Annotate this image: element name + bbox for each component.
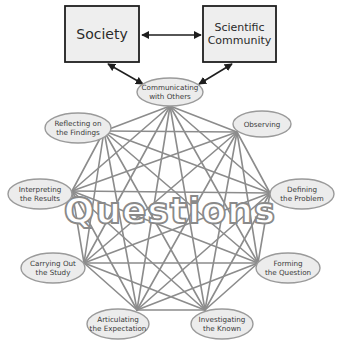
node-label: with Others bbox=[149, 92, 191, 101]
node-interpreting: Interpretingthe Results bbox=[8, 179, 72, 209]
node-communicating: Communicatingwith Others bbox=[137, 78, 203, 106]
node-reflecting: Reflecting onthe Findings bbox=[45, 113, 111, 143]
arrow-society-to-communicating bbox=[108, 64, 143, 84]
edge-defining-reflecting bbox=[104, 131, 270, 193]
node-defining: Definingthe Problem bbox=[270, 179, 334, 209]
node-label: the Problem bbox=[280, 194, 323, 203]
questions-network-diagram: Questions SocietyScientificCommunity Com… bbox=[0, 0, 338, 343]
node-label: the Results bbox=[20, 194, 60, 203]
node-articulating: Articulatingthe Expectation bbox=[87, 309, 149, 339]
node-carrying-out: Carrying Outthe Study bbox=[21, 253, 85, 283]
node-label: the Question bbox=[265, 268, 311, 277]
box-society: Society bbox=[65, 6, 139, 62]
node-observing: Observing bbox=[233, 111, 291, 137]
top-boxes: SocietyScientificCommunity bbox=[65, 6, 276, 62]
edge-communicating-reflecting bbox=[104, 106, 170, 131]
node-forming: Formingthe Question bbox=[256, 253, 320, 283]
box-scientific-community: ScientificCommunity bbox=[203, 6, 276, 62]
node-label: the Findings bbox=[56, 128, 100, 137]
node-label: the Expectation bbox=[90, 324, 147, 333]
node-investigating: Investigatingthe Known bbox=[191, 309, 253, 339]
center-label-questions: Questions bbox=[64, 190, 276, 231]
arrow-scientific-community-to-communicating bbox=[199, 64, 232, 84]
node-label: Observing bbox=[244, 120, 281, 129]
box-label: Community bbox=[208, 34, 272, 47]
edge-observing-reflecting bbox=[104, 131, 237, 132]
box-label: Society bbox=[76, 26, 127, 42]
edge-communicating-observing bbox=[170, 106, 237, 132]
box-label: Scientific bbox=[214, 21, 264, 34]
node-label: the Known bbox=[203, 324, 241, 333]
node-label: the Study bbox=[36, 268, 72, 277]
